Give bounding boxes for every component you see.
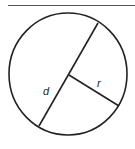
circle-diagram: d r: [0, 0, 135, 149]
radius-label: r: [97, 77, 102, 89]
diameter-label: d: [43, 85, 50, 97]
diameter-line: [39, 23, 98, 126]
radius-line: [69, 75, 119, 106]
